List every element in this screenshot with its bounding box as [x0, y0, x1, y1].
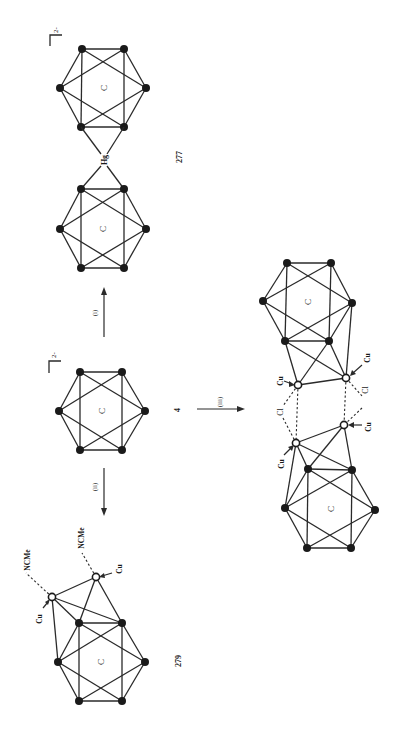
compound-number-4: 4	[173, 408, 182, 412]
reaction-label-iii: (iii)	[216, 396, 224, 407]
reaction-arrow-i: (i)	[91, 287, 107, 337]
cl-label: Cl	[361, 385, 370, 393]
cu-atom	[92, 573, 99, 580]
compound-number-277: 277	[175, 151, 184, 163]
carborane-cage-upper: C	[259, 259, 356, 385]
ncme-label: NCMe	[77, 527, 86, 549]
carborane-cage: C	[52, 577, 149, 705]
carborane-cage-lower: C	[56, 185, 150, 272]
reaction-arrow-iii: (iii)	[197, 396, 245, 412]
compound-cl-bridged: C Cl Cl	[259, 259, 379, 552]
cu-label: Cu	[115, 564, 124, 574]
reaction-label-i: (i)	[91, 309, 99, 316]
cage-label-c: C	[326, 506, 336, 512]
cl-label: Cl	[276, 407, 285, 415]
cu-label: Cu	[364, 422, 373, 432]
reaction-scheme: 2- C Hg	[0, 0, 399, 732]
compound-number-279: 279	[174, 655, 183, 667]
cage-label-c: C	[303, 299, 313, 305]
cage-label-c: C	[98, 226, 108, 232]
charge-label-4: 2-	[50, 351, 58, 358]
cage-label-c: C	[99, 85, 109, 91]
reaction-label-ii: (ii)	[91, 482, 99, 491]
charge-bracket-277: 2-	[50, 26, 62, 46]
cu-label: Cu	[276, 376, 285, 386]
ncme-label: NCMe	[23, 549, 32, 571]
charge-label-277: 2-	[52, 26, 60, 33]
compound-279: C NCMe NCMe Cu Cu 279	[23, 527, 183, 705]
cage-label-c: C	[96, 659, 106, 665]
cu-label: Cu	[363, 353, 372, 363]
compound-4: 2- C 4	[49, 351, 182, 454]
compound-277: 2- C Hg	[50, 26, 184, 272]
carborane-cage-upper: C	[56, 45, 150, 131]
charge-bracket-4: 2-	[49, 351, 61, 373]
cu-atom	[340, 421, 347, 428]
cu-atom	[294, 381, 301, 388]
cage-label-c: C	[97, 408, 107, 414]
cu-atom	[342, 374, 349, 381]
reaction-arrow-ii: (ii)	[91, 468, 107, 516]
carborane-cage: C	[55, 368, 149, 454]
hg-label: Hg	[100, 155, 109, 165]
cu-label: Cu	[35, 614, 44, 624]
cu-label: Cu	[277, 459, 286, 469]
